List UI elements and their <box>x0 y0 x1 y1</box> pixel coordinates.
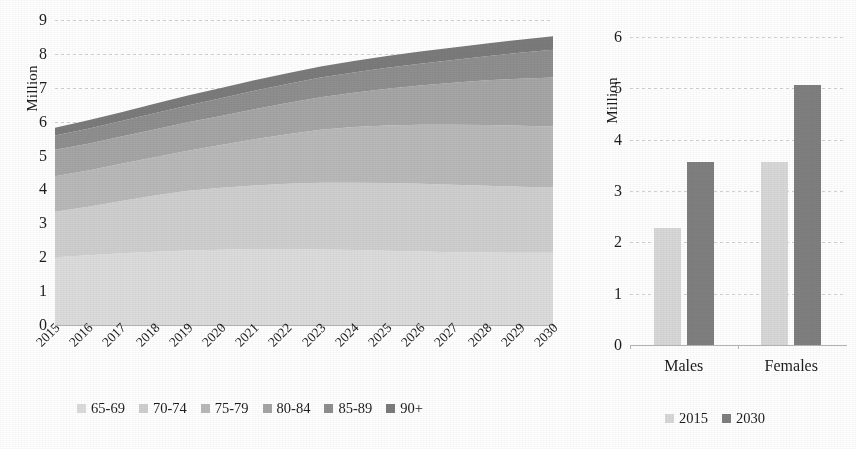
x-tick-label: 2017 <box>99 320 129 350</box>
legend-swatch-icon <box>722 414 731 423</box>
legend-label: 70-74 <box>153 400 187 417</box>
x-tick-label: 2025 <box>365 320 395 350</box>
legend-swatch-icon <box>386 404 395 413</box>
legend-label: 85-89 <box>338 400 372 417</box>
x-tick-label: 2018 <box>133 320 163 350</box>
legend-swatch-icon <box>324 404 333 413</box>
legend-swatch-icon <box>77 404 86 413</box>
legend-item[interactable]: 80-84 <box>263 400 311 417</box>
legend-item[interactable]: 70-74 <box>139 400 187 417</box>
legend-item[interactable]: 75-79 <box>201 400 249 417</box>
x-tick-label: 2016 <box>66 320 96 350</box>
legend-label: 75-79 <box>215 400 249 417</box>
legend-swatch-icon <box>665 414 674 423</box>
x-tick-label: 2020 <box>199 320 229 350</box>
x-tick-label: 2019 <box>166 320 196 350</box>
legend-item[interactable]: 65-69 <box>77 400 125 417</box>
legend-item[interactable]: 85-89 <box>324 400 372 417</box>
x-tick-label: 2023 <box>299 320 329 350</box>
x-tick-label: 2028 <box>465 320 495 350</box>
figure-root: Million 9876543210 201520162017201820192… <box>0 0 856 449</box>
legend-label: 65-69 <box>91 400 125 417</box>
x-tick-label: Females <box>741 357 841 375</box>
legend-label: 80-84 <box>277 400 311 417</box>
x-tick-label: 2015 <box>33 320 63 350</box>
x-tick-label: 2027 <box>431 320 461 350</box>
x-tick-label: 2026 <box>398 320 428 350</box>
legend-label: 2015 <box>679 410 708 427</box>
x-tick-label: 2022 <box>265 320 295 350</box>
x-tick-label: 2030 <box>531 320 561 350</box>
legend-swatch-icon <box>201 404 210 413</box>
area-chart-x-tick-labels: 2015201620172018201920202021202220232024… <box>0 0 565 449</box>
legend-item[interactable]: 2015 <box>665 410 708 427</box>
legend-swatch-icon <box>139 404 148 413</box>
legend-item[interactable]: 90+ <box>386 400 423 417</box>
legend-label: 2030 <box>736 410 765 427</box>
x-tick-label: 2021 <box>232 320 262 350</box>
bar-chart-x-tick-labels: MalesFemales <box>565 0 856 449</box>
legend-swatch-icon <box>263 404 272 413</box>
grouped-bar-chart-panel: Million 6543210 MalesFemales 20152030 <box>565 0 856 449</box>
bar-chart-legend: 20152030 <box>605 408 825 428</box>
x-tick-label: Males <box>634 357 734 375</box>
legend-item[interactable]: 2030 <box>722 410 765 427</box>
area-chart-legend: 65-6970-7475-7980-8485-8990+ <box>60 398 440 418</box>
stacked-area-chart-panel: Million 9876543210 201520162017201820192… <box>0 0 565 449</box>
legend-label: 90+ <box>400 400 423 417</box>
x-tick-mark <box>630 345 631 349</box>
x-tick-label: 2029 <box>498 320 528 350</box>
x-tick-label: 2024 <box>332 320 362 350</box>
x-tick-mark <box>738 345 739 349</box>
